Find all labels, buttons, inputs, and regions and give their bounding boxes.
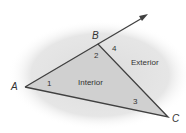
angle-label-2: 2 [94,51,99,60]
angle-label-4: 4 [112,44,117,53]
interior-label: Interior [78,78,103,87]
arrow-head-icon [139,14,148,21]
diagram-canvas: A B C 1 2 3 4 Interior Exterior [0,0,186,133]
angle-label-3: 3 [133,97,138,106]
angle-label-1: 1 [47,79,52,88]
vertex-label-c: C [172,113,180,124]
exterior-label: Exterior [131,58,159,67]
vertex-label-b: B [92,30,99,41]
triangle-exterior-angle-diagram: A B C 1 2 3 4 Interior Exterior [0,0,186,133]
vertex-label-a: A [10,81,18,92]
